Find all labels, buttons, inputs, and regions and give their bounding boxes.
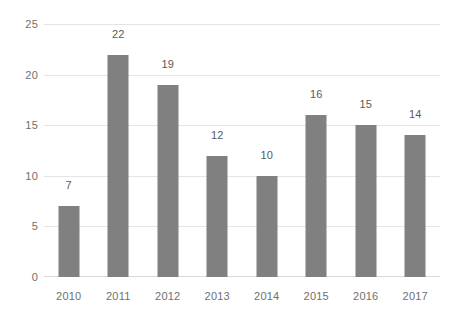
bar-slot: 10 — [242, 24, 292, 277]
x-axis-tick-label: 2011 — [106, 290, 130, 302]
bar-chart: 25 20 15 10 5 0 7 22 19 12 10 — [0, 0, 457, 316]
bar-2013[interactable] — [207, 156, 228, 277]
x-axis-tick-label: 2016 — [353, 290, 378, 302]
x-axis-tick-label: 2012 — [155, 290, 180, 302]
x-axis-tick: 2016 — [341, 286, 391, 304]
x-axis-tick: 2012 — [143, 286, 193, 304]
x-axis-tick: 2010 — [44, 286, 94, 304]
bar-slot: 14 — [391, 24, 441, 277]
x-axis-tick-label: 2017 — [403, 290, 428, 302]
bar-2011[interactable] — [108, 55, 129, 278]
y-axis-tick-label: 25 — [4, 19, 38, 30]
bar-value-label: 14 — [409, 109, 422, 120]
bar-slot: 19 — [143, 24, 193, 277]
x-axis-tick: 2013 — [193, 286, 243, 304]
x-axis-tick-label: 2013 — [205, 290, 230, 302]
bar-value-label: 22 — [112, 29, 125, 40]
x-axis-tick-label: 2010 — [56, 290, 81, 302]
bar-value-label: 7 — [66, 180, 72, 191]
bar-slot: 16 — [292, 24, 342, 277]
bar-slot: 22 — [94, 24, 144, 277]
bar-value-label: 12 — [211, 130, 224, 141]
bar-value-label: 16 — [310, 89, 323, 100]
x-axis-tick-label: 2014 — [254, 290, 279, 302]
bar-slot: 15 — [341, 24, 391, 277]
bar-2014[interactable] — [256, 176, 277, 277]
bar-2016[interactable] — [355, 125, 376, 277]
x-axis: 2010 2011 2012 2013 2014 2015 2016 2017 — [44, 286, 440, 300]
bar-slot: 7 — [44, 24, 94, 277]
y-axis-tick-label: 10 — [4, 171, 38, 182]
bar-2017[interactable] — [405, 135, 426, 277]
x-axis-tick-label: 2015 — [304, 290, 329, 302]
bar-value-label: 19 — [161, 59, 174, 70]
y-axis: 25 20 15 10 5 0 — [0, 24, 38, 277]
x-axis-tick: 2011 — [94, 286, 144, 304]
y-axis-tick-label: 0 — [4, 272, 38, 283]
bar-2012[interactable] — [157, 85, 178, 277]
plot-area: 7 22 19 12 10 16 15 14 — [44, 24, 440, 277]
y-axis-tick-label: 20 — [4, 70, 38, 81]
bar-slot: 12 — [193, 24, 243, 277]
x-axis-tick: 2015 — [292, 286, 342, 304]
bar-2015[interactable] — [306, 115, 327, 277]
bar-value-label: 10 — [260, 150, 273, 161]
y-axis-tick-label: 15 — [4, 120, 38, 131]
x-axis-tick: 2014 — [242, 286, 292, 304]
bar-2010[interactable] — [58, 206, 79, 277]
bar-value-label: 15 — [359, 99, 372, 110]
x-axis-tick: 2017 — [391, 286, 441, 304]
y-axis-tick-label: 5 — [4, 221, 38, 232]
